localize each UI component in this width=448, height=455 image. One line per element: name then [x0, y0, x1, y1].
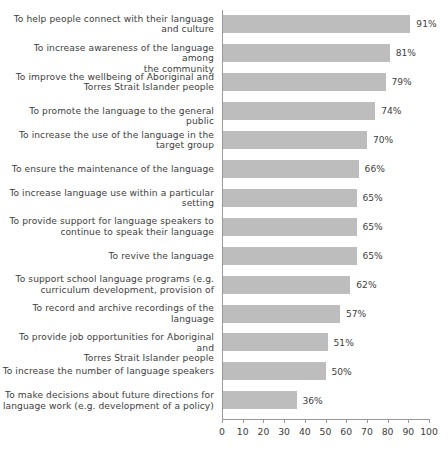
chart-rows: To help people connect with their langua… [0, 0, 448, 420]
x-axis-tick [222, 419, 223, 423]
x-axis-tick-label: 70 [361, 426, 373, 437]
bar [222, 247, 357, 265]
bar-value-label: 65% [363, 251, 383, 261]
x-axis-tick [305, 419, 306, 423]
horizontal-bar-chart: To help people connect with their langua… [0, 0, 448, 455]
bar [222, 73, 386, 91]
category-label: To increase language use within a partic… [0, 188, 214, 209]
y-axis-line [222, 10, 223, 419]
category-label: To provide support for language speakers… [0, 216, 214, 237]
bar-value-label: 65% [363, 222, 383, 232]
chart-row: To increase the use of the language in t… [0, 131, 448, 160]
bar-value-label: 51% [334, 338, 354, 348]
bar [222, 15, 410, 33]
x-axis-tick-label: 40 [299, 426, 311, 437]
x-axis-tick [346, 419, 347, 423]
x-axis-tick-label: 80 [382, 426, 394, 437]
bar-value-label: 36% [303, 396, 323, 406]
bar-value-label: 81% [396, 48, 416, 58]
chart-row: To ensure the maintenance of the languag… [0, 160, 448, 189]
category-label: To make decisions about future direction… [0, 390, 214, 411]
bar-value-label: 65% [363, 193, 383, 203]
x-axis-tick-label: 50 [320, 426, 332, 437]
bar [222, 131, 367, 149]
x-axis-tick-label: 90 [402, 426, 414, 437]
bar-value-label: 50% [332, 367, 352, 377]
category-label: To promote the language to the general p… [0, 106, 214, 127]
x-axis-tick [367, 419, 368, 423]
x-axis-tick [263, 419, 264, 423]
chart-row: To make decisions about future direction… [0, 391, 448, 420]
x-axis-tick [388, 419, 389, 423]
category-label: To ensure the maintenance of the languag… [0, 164, 214, 174]
bar [222, 362, 326, 380]
x-axis-tick [408, 419, 409, 423]
chart-row: To record and archive recordings of the … [0, 305, 448, 334]
x-axis-tick [429, 419, 430, 423]
chart-row: To support school language programs (e.g… [0, 276, 448, 305]
category-label: To improve the wellbeing of Aboriginal a… [0, 72, 214, 93]
category-label: To increase awareness of the language am… [0, 43, 214, 74]
x-axis-tick-label: 0 [219, 426, 225, 437]
chart-row: To provide support for language speakers… [0, 218, 448, 247]
bar [222, 102, 375, 120]
bar [222, 333, 328, 351]
category-label: To increase the use of the language in t… [0, 130, 214, 151]
x-axis-tick-label: 100 [420, 426, 438, 437]
x-axis-tick-label: 20 [257, 426, 269, 437]
bar-value-label: 57% [346, 309, 366, 319]
category-label: To provide job opportunities for Aborigi… [0, 332, 214, 363]
bar [222, 189, 357, 207]
bar-value-label: 62% [356, 280, 376, 290]
chart-row: To promote the language to the general p… [0, 102, 448, 131]
chart-row: To increase language use within a partic… [0, 189, 448, 218]
chart-row: To provide job opportunities for Aborigi… [0, 333, 448, 362]
bar-value-label: 74% [381, 106, 401, 116]
chart-row: To help people connect with their langua… [0, 15, 448, 44]
chart-row: To increase the number of language speak… [0, 362, 448, 391]
bar [222, 276, 350, 294]
x-axis-tick [284, 419, 285, 423]
bar-value-label: 91% [416, 19, 436, 29]
category-label: To increase the number of language speak… [0, 366, 214, 376]
bar-value-label: 70% [373, 135, 393, 145]
bar [222, 305, 340, 323]
bar [222, 160, 359, 178]
bar [222, 391, 297, 409]
bar [222, 44, 390, 62]
category-label: To help people connect with their langua… [0, 14, 214, 35]
category-label: To support school language programs (e.g… [0, 274, 214, 295]
x-axis-tick-label: 30 [278, 426, 290, 437]
bar-value-label: 79% [392, 77, 412, 87]
x-axis-tick-label: 60 [340, 426, 352, 437]
x-axis-tick-label: 10 [237, 426, 249, 437]
bar [222, 218, 357, 236]
x-axis-tick [243, 419, 244, 423]
bar-value-label: 66% [365, 164, 385, 174]
chart-row: To revive the language65% [0, 247, 448, 276]
category-label: To record and archive recordings of the … [0, 303, 214, 324]
category-label: To revive the language [0, 251, 214, 261]
chart-row: To increase awareness of the language am… [0, 44, 448, 73]
chart-row: To improve the wellbeing of Aboriginal a… [0, 73, 448, 102]
x-axis-tick [326, 419, 327, 423]
